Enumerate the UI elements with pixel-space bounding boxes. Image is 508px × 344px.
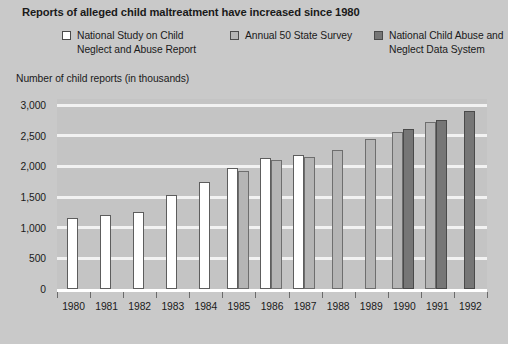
bar-1985-series0 <box>227 168 238 289</box>
page-title: Reports of alleged child maltreatment ha… <box>22 6 360 18</box>
x-tick-13 <box>487 292 488 298</box>
bar-1983-series0 <box>166 195 177 289</box>
x-tick-3 <box>156 292 157 298</box>
y-tick-label-0: 0 <box>40 284 46 295</box>
x-tick-4 <box>189 292 190 298</box>
bar-1985-series1 <box>238 171 249 289</box>
legend-item-ncands: National Child Abuse and Neglect Data Sy… <box>374 29 508 56</box>
x-tick-0 <box>57 292 58 298</box>
x-label-1989: 1989 <box>360 301 383 312</box>
bar-1981-series0 <box>100 215 111 289</box>
chart-legend: National Study on Child Neglect and Abus… <box>62 29 492 63</box>
legend-item-national-study: National Study on Child Neglect and Abus… <box>62 29 212 56</box>
x-label-1984: 1984 <box>194 301 217 312</box>
x-label-1990: 1990 <box>393 301 416 312</box>
y-axis-tick-labels: 05001,0001,5002,0002,5003,000 <box>0 99 52 292</box>
legend-swatch-annual-50-state-survey <box>230 31 239 40</box>
bar-1991-series2 <box>436 120 447 289</box>
legend-label-ncands: National Child Abuse and Neglect Data Sy… <box>389 29 508 56</box>
chart-plot-area <box>57 99 487 292</box>
bar-1987-series1 <box>304 157 315 289</box>
y-axis-caption: Number of child reports (in thousands) <box>16 73 189 84</box>
x-label-1983: 1983 <box>161 301 184 312</box>
legend-swatch-national-study <box>62 31 71 40</box>
y-tick-label-500: 500 <box>29 253 46 264</box>
x-tick-5 <box>222 292 223 298</box>
x-tick-11 <box>421 292 422 298</box>
x-label-1981: 1981 <box>95 301 118 312</box>
x-tick-1 <box>90 292 91 298</box>
bar-1986-series1 <box>271 160 282 289</box>
x-tick-10 <box>388 292 389 298</box>
bar-1990-series1 <box>392 132 403 289</box>
bar-1982-series0 <box>133 212 144 289</box>
x-label-1986: 1986 <box>261 301 284 312</box>
x-label-1992: 1992 <box>459 301 482 312</box>
legend-item-annual-50-state-survey: Annual 50 State Survey <box>230 29 370 43</box>
x-tick-7 <box>289 292 290 298</box>
bar-1984-series0 <box>199 182 210 289</box>
x-tick-8 <box>322 292 323 298</box>
legend-swatch-ncands <box>374 31 383 40</box>
bar-1987-series0 <box>293 155 304 289</box>
y-tick-label-3000: 3,000 <box>20 100 46 111</box>
x-label-1991: 1991 <box>426 301 449 312</box>
y-tick-label-1500: 1,500 <box>20 192 46 203</box>
y-tick-label-2000: 2,000 <box>20 161 46 172</box>
bar-1980-series0 <box>67 218 78 289</box>
bar-1990-series2 <box>403 129 414 289</box>
x-label-1985: 1985 <box>228 301 251 312</box>
x-label-1982: 1982 <box>128 301 151 312</box>
x-label-1988: 1988 <box>327 301 350 312</box>
bar-1991-series1 <box>425 122 436 289</box>
x-axis-year-labels: 1980198119821983198419851986198719881989… <box>57 301 487 317</box>
bar-1992-series2 <box>464 111 475 289</box>
x-axis-ticks <box>57 292 487 300</box>
bar-1989-series1 <box>365 139 376 289</box>
bar-1988-series1 <box>332 150 343 289</box>
x-label-1980: 1980 <box>62 301 85 312</box>
y-tick-label-1000: 1,000 <box>20 222 46 233</box>
x-tick-2 <box>123 292 124 298</box>
x-tick-9 <box>355 292 356 298</box>
y-tick-label-2500: 2,500 <box>20 130 46 141</box>
x-tick-6 <box>255 292 256 298</box>
x-tick-12 <box>454 292 455 298</box>
bar-1986-series0 <box>260 158 271 289</box>
legend-label-annual-50-state-survey: Annual 50 State Survey <box>245 29 352 43</box>
chart-bars <box>57 99 487 292</box>
x-label-1987: 1987 <box>294 301 317 312</box>
legend-label-national-study: National Study on Child Neglect and Abus… <box>77 29 212 56</box>
